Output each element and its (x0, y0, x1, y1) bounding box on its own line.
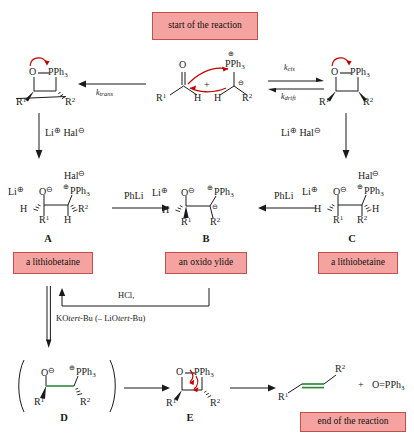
structure-c-letter: C (340, 233, 364, 244)
reactants-aldehyde-ylide: O R1 H PPh3 ⊕ H R2 ⊖ + (152, 58, 264, 110)
oxaphosphetane-trans: O PPh3 R1 R2 (16, 50, 106, 108)
arrow-equilibrium-cis-drift (268, 75, 324, 97)
aldehyde-hydrogen-label: H (194, 93, 201, 103)
structure-c-lithium: Li⊕ (302, 186, 318, 197)
structure-b-r2: R2 (210, 217, 220, 227)
structure-e-letter: E (178, 412, 202, 423)
reagent-li-hal-left: Li⊕ Hal⊖ (45, 127, 85, 138)
structure-e-r2: R2 (210, 398, 220, 408)
oxaphosphetane-cis-phosphorus: PPh3 (350, 67, 370, 79)
structure-a-phosphorus: PPh3 (70, 186, 90, 198)
arrow-e-to-products (230, 383, 276, 393)
reagent-phli-left: PhLi (124, 191, 143, 201)
oxaphosphetane-trans-r1: R1 (16, 97, 26, 107)
structure-c-hydrogen-c2: H (372, 204, 379, 214)
structure-a-r1: R1 (39, 215, 49, 225)
aldehyde-oxygen-label: O (179, 60, 186, 70)
structure-e-r1: R1 (166, 398, 176, 408)
structure-d-phosphorus: PPh3 (76, 367, 96, 379)
start-of-reaction-label: start of the reaction (168, 20, 242, 32)
structure-a-oxygen: O⊖ (39, 186, 53, 197)
structure-c-phosphorus-plus-charge: ⊕ (357, 184, 363, 191)
caption-oxido-ylide: an oxido ylide (165, 252, 247, 274)
structure-c-phosphorus: PPh3 (364, 186, 384, 198)
structure-c-halide: Hal⊖ (358, 170, 379, 181)
caption-lithiobetaine-left: a lithiobetaine (13, 252, 93, 274)
oxaphosphetane-cis: O PPh3 R1 R2 (318, 50, 410, 108)
ylide-phosphorus-plus-charge: ⊕ (228, 51, 234, 58)
ylide-carbanion-minus-charge: ⊖ (238, 80, 244, 87)
structure-d-r2: R2 (80, 397, 90, 407)
structure-b-letter: B (194, 233, 218, 244)
end-of-reaction-box: end of the reaction (300, 412, 406, 432)
structure-d-phosphorus-plus-charge: ⊕ (69, 365, 75, 372)
structure-b-oxido-ylide: Li⊕ O⊖ PPh3 ⊕ ⊖ H R1 R2 (150, 176, 256, 236)
structure-a-lithiobetaine: Li⊕ O⊖ PPh3 ⊕ Hal⊖ H R1 R2 H (6, 168, 114, 234)
aldehyde-r1-label: R1 (156, 93, 166, 103)
arrow-down-left-lihal (33, 113, 45, 159)
structure-a-hydrogen-c1: H (20, 204, 27, 214)
oxaphosphetane-trans-oxygen: O (29, 67, 36, 77)
structure-e-oxygen: O (176, 367, 183, 377)
ylide-r2-label: R2 (242, 93, 252, 103)
rate-label-k-cis: kcis (284, 63, 295, 72)
arrow-d-to-e (124, 383, 170, 393)
structure-d-r1: R1 (34, 397, 44, 407)
structure-c-r2: R2 (357, 215, 367, 225)
structure-c-lithiobetaine: Li⊕ O⊖ PPh3 ⊕ Hal⊖ H R1 H R2 (300, 168, 410, 234)
reagent-phli-right: PhLi (274, 191, 293, 201)
oxaphosphetane-cis-oxygen: O (331, 67, 338, 77)
end-of-reaction-label: end of the reaction (318, 416, 389, 428)
structure-c-r1: R1 (333, 215, 343, 225)
ylide-phosphonium-label: PPh3 (225, 59, 245, 71)
structure-c-hydrogen-c1: H (314, 204, 321, 214)
structure-b-phosphorus-plus-charge: ⊕ (207, 185, 213, 192)
structure-e-phosphorus: PPh3 (194, 367, 214, 379)
structure-a-letter: A (36, 233, 60, 244)
structure-d-letter: D (52, 412, 76, 423)
product-alkene-r1: R1 (278, 392, 288, 402)
product-phosphine-oxide: O=PPh3 (372, 380, 404, 392)
structure-d-betaine-bracket: O⊖ PPh3 ⊕ R1 R2 (16, 358, 122, 414)
oxaphosphetane-trans-phosphorus: PPh3 (48, 67, 68, 79)
arrow-kotbu-down (44, 286, 54, 348)
structure-d-oxygen: O⊖ (41, 367, 55, 378)
structure-a-halide: Hal⊖ (64, 170, 85, 181)
structure-a-r2: R2 (78, 204, 88, 214)
reagent-li-hal-right: Li⊕ Hal⊖ (281, 127, 321, 138)
ylide-hydrogen-label: H (214, 93, 221, 103)
reagent-kotert-bu: KOtert-Bu (– LiOtert-Bu) (56, 313, 145, 323)
wittig-mechanism-diagram: start of the reaction O R1 (0, 0, 414, 439)
structure-a-hydrogen-c2: H (64, 215, 71, 225)
caption-lithiobetaine-left-label: a lithiobetaine (26, 257, 80, 269)
oxaphosphetane-cis-r2: R2 (363, 97, 373, 107)
caption-lithiobetaine-right-label: a lithiobetaine (331, 257, 385, 269)
structure-b-carbanion-minus-charge: ⊖ (212, 204, 218, 211)
rate-label-k-drift: kdrift (281, 92, 296, 101)
start-of-reaction-box: start of the reaction (152, 12, 258, 40)
structure-b-r1: R1 (181, 217, 191, 227)
product-alkene-r2: R2 (335, 364, 345, 374)
structure-b-phosphorus: PPh3 (214, 187, 234, 199)
oxaphosphetane-cis-r1: R1 (319, 97, 329, 107)
structure-b-oxygen: O⊖ (181, 187, 195, 198)
structure-a-phosphorus-plus-charge: ⊕ (63, 184, 69, 191)
products-plus-sign: + (358, 380, 364, 390)
structure-b-lithium: Li⊕ (152, 187, 168, 198)
reagent-hcl: HCl, (118, 290, 134, 300)
structure-a-lithium: Li⊕ (8, 186, 24, 197)
structure-c-oxygen: O⊖ (333, 186, 347, 197)
structure-b-hydrogen: H (162, 205, 169, 215)
reactants-plus-sign: + (204, 80, 210, 90)
oxaphosphetane-trans-r2: R2 (65, 97, 75, 107)
caption-oxido-ylide-label: an oxido ylide (179, 257, 233, 269)
caption-lithiobetaine-right: a lithiobetaine (318, 252, 398, 274)
arrow-down-right-lihal (340, 113, 352, 159)
products-alkene-and-phosphine-oxide: R1 R2 + O=PPh3 (280, 360, 410, 408)
